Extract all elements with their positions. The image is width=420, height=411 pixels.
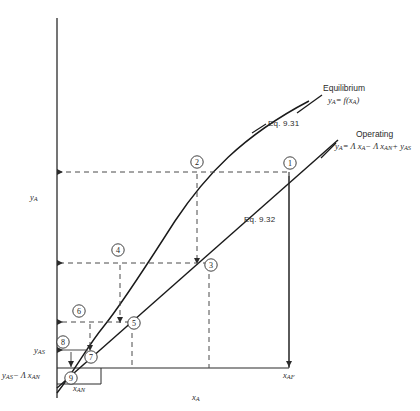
- stage-number-9: 9: [69, 374, 73, 383]
- y-axis-label-sub: A: [34, 195, 38, 202]
- operating-formula-p3: − Λ x: [365, 141, 384, 151]
- equilibrium-leader-line: [297, 95, 322, 113]
- stage-construction-figure: 1 2 3 4 5 6 7 8 9: [0, 0, 420, 411]
- yasm-p2: − Λ x: [13, 370, 32, 380]
- x-an-tick-label: xAN: [73, 384, 85, 394]
- operating-leader-line: [321, 143, 336, 158]
- x-axis-label: xA: [192, 393, 200, 403]
- y-axis-label: yA: [30, 193, 38, 203]
- operating-line-label: Operating: [356, 130, 393, 140]
- operating-formula: yA= Λ xA− Λ xAN+ yAS: [335, 142, 411, 152]
- stage-markers: [57, 156, 296, 384]
- axes-group: [57, 18, 333, 398]
- stage-number-7: 7: [89, 353, 93, 362]
- yasm-s2: AN: [32, 373, 40, 380]
- stage-number-6: 6: [77, 307, 81, 316]
- staircase-construction: [57, 172, 289, 368]
- stage-number-4: 4: [116, 246, 120, 255]
- stage-number-5: 5: [132, 319, 136, 328]
- eq-9-31-label: Eq. 9.31: [268, 119, 299, 128]
- x-af-sub: AF: [287, 373, 295, 380]
- operating-formula-p2: = Λ x: [343, 141, 362, 151]
- eq-9-32-label: Eq. 9.32: [244, 215, 275, 224]
- x-axis-label-sub: A: [196, 395, 200, 402]
- equilibrium-formula-tail: ): [356, 95, 359, 105]
- yasm-s1: AS: [6, 373, 13, 380]
- stage-number-3: 3: [209, 261, 213, 270]
- equilibrium-curve-label: Equilibrium: [323, 84, 365, 94]
- equilibrium-curve: [57, 101, 309, 393]
- x-af-tick-label: xAF: [283, 371, 295, 381]
- x-an-sub: AN: [77, 386, 85, 393]
- stage-number-2: 2: [195, 158, 199, 167]
- operating-formula-sub4: AS: [404, 144, 411, 151]
- equilibrium-formula: yA= f(xA): [328, 96, 359, 106]
- stage-number-8: 8: [61, 338, 65, 347]
- y-as-minus-lambda-xan-label: yAS− Λ xAN: [2, 371, 40, 381]
- operating-formula-p4: + y: [392, 141, 404, 151]
- stage-number-1: 1: [288, 159, 292, 168]
- y-as-sub: AS: [38, 348, 45, 355]
- equilibrium-formula-mid: = f(x: [336, 95, 353, 105]
- y-as-tick-label: yAS: [34, 346, 45, 356]
- stage-numbers: 1 2 3 4 5 6 7 8 9: [61, 158, 292, 383]
